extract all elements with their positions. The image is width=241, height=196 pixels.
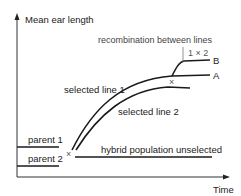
x-axis-label: Time (213, 184, 234, 195)
y-axis-arrow-icon (15, 13, 20, 20)
selected-line-1-label: selected line 1 (64, 84, 125, 95)
parent-2-label: parent 2 (28, 153, 63, 164)
line-b-label: B (213, 55, 219, 66)
cross-mark-parents: × (66, 149, 71, 159)
cross-mark-lines: × (169, 77, 174, 87)
line-b-curve (172, 60, 210, 76)
breeding-diagram: Mean ear length Time parent 1 parent 2 ×… (0, 0, 241, 196)
selected-line-2-label: selected line 2 (118, 106, 179, 117)
y-axis (15, 13, 20, 177)
hybrid-label: hybrid population unselected (101, 144, 222, 155)
parent-1-label: parent 1 (28, 134, 63, 145)
line-a-label: A (213, 70, 220, 81)
cross-1x2-label: 1 × 2 (188, 48, 208, 58)
x-axis (17, 175, 230, 180)
recombination-label: recombination between lines (98, 35, 213, 45)
y-axis-label: Mean ear length (25, 14, 94, 25)
x-axis-arrow-icon (223, 175, 230, 180)
selected-line-2-curve (76, 87, 190, 150)
